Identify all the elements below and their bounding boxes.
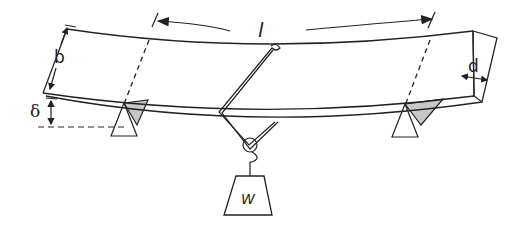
span-label: l [258, 18, 264, 42]
height-label: b [54, 47, 65, 67]
left-support [111, 100, 148, 136]
hanger [219, 44, 280, 176]
weight: W [224, 176, 272, 215]
width-label: d [468, 56, 479, 76]
weight-label: W [241, 191, 256, 207]
span-dimension [152, 12, 435, 31]
deflection-label: δ [30, 101, 40, 121]
beam-bending-diagram: W l b d δ [0, 0, 520, 237]
right-support [392, 99, 443, 137]
